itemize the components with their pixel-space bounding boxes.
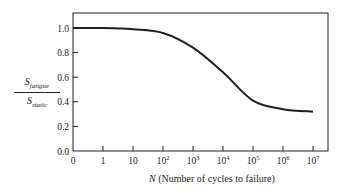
y-axis-ticks: 0.00.20.40.60.81.0 [57, 24, 78, 157]
y-tick-label: 0.2 [57, 122, 69, 132]
y-axis-denominator: Sstatic [14, 95, 60, 109]
x-tick-label: 106 [277, 154, 291, 166]
x-tick-label: 103 [187, 154, 200, 166]
x-axis-title: N (Number of cycles to failure) [148, 173, 275, 185]
plot-frame [73, 13, 328, 151]
x-axis-ticks: 0110102103104105106107 [71, 146, 321, 166]
x-tick-label: 1 [101, 156, 106, 166]
x-tick-label: 0 [71, 156, 76, 166]
y-tick-label: 1.0 [57, 24, 69, 34]
fatigue-curve [73, 28, 313, 112]
y-tick-label: 0.8 [57, 48, 69, 58]
x-tick-label: 105 [247, 154, 260, 166]
x-tick-label: 104 [217, 154, 231, 166]
x-tick-label: 107 [307, 154, 321, 166]
x-tick-label: 102 [157, 154, 170, 166]
y-tick-label: 0.0 [57, 147, 69, 157]
x-tick-label: 10 [128, 156, 138, 166]
fraction-bar [14, 92, 60, 93]
y-axis-title: Sfatigue Sstatic [14, 76, 60, 109]
y-axis-numerator: Sfatigue [14, 76, 60, 90]
